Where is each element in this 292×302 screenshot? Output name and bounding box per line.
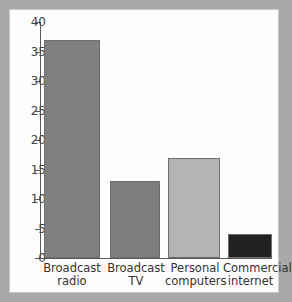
y-tick-label: 20 [6, 134, 46, 146]
category-label: Broadcast TV [107, 262, 165, 288]
chart-figure: 0510152025303540 Broadcast radioBroadcas… [10, 10, 278, 292]
y-tick-label: 0 [6, 252, 46, 264]
plot-area: 0510152025303540 Broadcast radioBroadcas… [10, 10, 278, 292]
y-tick-label: 10 [6, 193, 46, 205]
category-label: Broadcast radio [41, 262, 103, 288]
y-tick-label: 35 [6, 46, 46, 58]
y-tick-label: 30 [6, 75, 46, 87]
bar [168, 158, 220, 258]
category-label: Personal computers [165, 262, 225, 288]
bar [228, 234, 272, 258]
bar [110, 181, 160, 258]
y-tick-label: 15 [6, 164, 46, 176]
category-label: Commercial internet [223, 262, 278, 288]
bar [44, 40, 100, 258]
x-axis-line [40, 258, 272, 259]
y-tick-label: 5 [6, 223, 46, 235]
y-tick-label: 25 [6, 105, 46, 117]
y-tick-label: 40 [6, 16, 46, 28]
